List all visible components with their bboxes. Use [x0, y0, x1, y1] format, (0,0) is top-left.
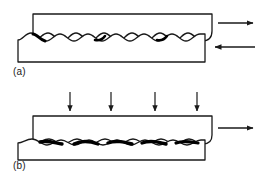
panel-b-group [18, 92, 253, 160]
panel-a-label: (a) [13, 66, 26, 77]
panel-b-label: (b) [13, 160, 26, 171]
contact-mechanics-diagram [0, 0, 270, 186]
panel-a-lower-body [18, 33, 205, 62]
panel-a-group [18, 14, 255, 62]
figure-container: (a) (b) [0, 0, 270, 186]
